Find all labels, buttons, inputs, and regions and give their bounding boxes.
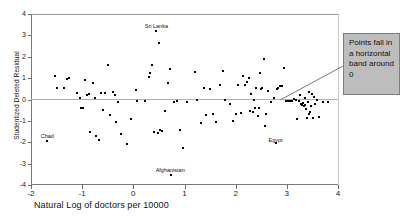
data-point: [114, 94, 116, 96]
data-point: [261, 87, 263, 89]
data-point: [54, 75, 56, 77]
x-tick-label: 3: [275, 189, 299, 198]
data-point: [144, 100, 146, 102]
data-point: [115, 121, 117, 123]
x-tick-label: 1: [173, 189, 197, 198]
data-point: [254, 107, 256, 109]
data-point: [242, 75, 244, 77]
data-point: [250, 93, 252, 95]
data-point: [92, 82, 94, 84]
data-point: [203, 87, 205, 89]
point-label: Sri Lanka: [145, 23, 168, 29]
data-point: [248, 77, 250, 79]
data-point: [308, 113, 310, 115]
data-point: [205, 114, 207, 116]
scatter-plot-figure: 43210-1-2-3-4 -2-101234 Sri LankaChadAfg…: [0, 0, 404, 216]
data-point: [120, 133, 122, 135]
data-point: [56, 87, 58, 89]
y-axis-title: Studentized Deleted Residual: [13, 36, 20, 156]
x-tick-label: -1: [70, 189, 94, 198]
data-point: [155, 30, 157, 32]
data-point: [259, 72, 261, 74]
data-point: [212, 113, 214, 115]
data-point: [224, 99, 226, 101]
data-point: [170, 174, 172, 176]
data-point: [102, 109, 104, 111]
data-point: [161, 130, 163, 132]
data-point: [84, 79, 86, 81]
data-point: [76, 92, 78, 94]
y-tick-label: -4: [2, 181, 26, 188]
data-point: [253, 99, 255, 101]
data-point: [82, 107, 84, 109]
data-point: [107, 64, 109, 66]
y-tick: [28, 14, 32, 15]
data-point: [94, 97, 96, 99]
data-point: [167, 82, 169, 84]
data-point: [186, 101, 188, 103]
data-point: [100, 92, 102, 94]
data-point: [68, 77, 70, 79]
data-point: [158, 42, 160, 44]
point-label: Chad: [41, 133, 54, 139]
data-point: [149, 72, 151, 74]
data-point: [219, 84, 221, 86]
data-point: [95, 135, 97, 137]
data-point: [232, 120, 234, 122]
data-point: [194, 71, 196, 73]
x-tick-label: 0: [121, 189, 145, 198]
data-point: [258, 107, 260, 109]
data-point: [63, 87, 65, 89]
data-point: [179, 129, 181, 131]
data-point: [148, 76, 150, 78]
data-point: [182, 147, 184, 149]
data-point: [169, 68, 171, 70]
y-tick: [28, 35, 32, 36]
data-point: [265, 113, 267, 115]
y-tick: [28, 164, 32, 165]
data-point: [310, 105, 312, 107]
data-point: [196, 99, 198, 101]
data-point: [157, 132, 159, 134]
data-point: [263, 58, 265, 60]
x-tick-label: -2: [19, 189, 43, 198]
data-point: [267, 90, 269, 92]
data-point: [112, 91, 114, 93]
data-point: [222, 70, 224, 72]
y-tick: [28, 121, 32, 122]
data-point: [237, 84, 239, 86]
data-point: [46, 140, 48, 142]
data-point: [240, 112, 242, 114]
data-point: [305, 108, 307, 110]
y-tick: [28, 57, 32, 58]
data-point: [318, 116, 320, 118]
data-point: [153, 131, 155, 133]
data-point: [104, 92, 106, 94]
x-axis-title: Natural Log of doctors per 10000: [34, 200, 169, 210]
data-point: [130, 118, 132, 120]
data-point: [89, 131, 91, 133]
y-tick: [28, 100, 32, 101]
x-tick-label: 2: [224, 189, 248, 198]
x-tick-label: 4: [326, 189, 350, 198]
data-point: [296, 118, 298, 120]
data-point: [151, 64, 153, 66]
data-point: [252, 111, 254, 113]
y-tick: [28, 142, 32, 143]
point-label: Afghanistan: [156, 167, 185, 173]
axis-top-spine: [31, 14, 338, 15]
point-label: Egypt: [269, 137, 283, 143]
data-point: [209, 88, 211, 90]
data-point: [79, 97, 81, 99]
callout-annotation-box: Points fall in a horizontal band around …: [343, 33, 400, 95]
data-point: [264, 125, 266, 127]
data-point: [246, 81, 248, 83]
data-point: [164, 110, 166, 112]
data-point: [215, 121, 217, 123]
y-tick-label: -3: [2, 160, 26, 167]
y-tick: [28, 78, 32, 79]
data-point: [255, 87, 257, 89]
data-point: [200, 122, 202, 124]
data-point: [229, 103, 231, 105]
data-point: [98, 139, 100, 141]
